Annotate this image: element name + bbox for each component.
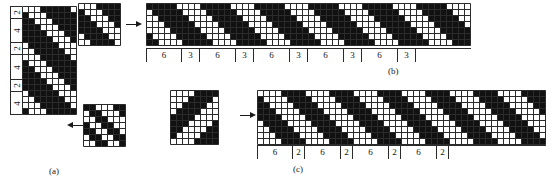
panel-c-extended bbox=[257, 90, 546, 145]
panel-c-ruler: 62626262 bbox=[257, 145, 546, 159]
panel-b-ruler: 6363636363 bbox=[146, 48, 471, 62]
panel-c-ruler-cell-4: 6 bbox=[353, 146, 389, 159]
caption-b: (b) bbox=[388, 66, 399, 76]
panel-c-ruler-cell-7: 2 bbox=[437, 146, 449, 159]
panel-b-extended-grid bbox=[146, 3, 471, 46]
panel-a-weave-grid bbox=[22, 6, 77, 115]
panel-b-extended-canvas bbox=[146, 3, 471, 46]
panel-b-ruler-cell-1: 3 bbox=[182, 49, 200, 62]
panel-c-ruler-cell-1: 2 bbox=[293, 146, 305, 159]
caption-c: (c) bbox=[293, 164, 303, 174]
panel-c-extended-canvas bbox=[257, 90, 546, 145]
panel-c-ruler-cell-5: 2 bbox=[389, 146, 401, 159]
panel-a-source bbox=[83, 104, 126, 147]
panel-a-source-canvas bbox=[83, 104, 126, 147]
panel-b-ruler-cell-0: 6 bbox=[146, 49, 182, 62]
panel-b-source-canvas bbox=[78, 3, 121, 46]
panel-c-ruler-cell-3: 2 bbox=[341, 146, 353, 159]
panel-b-ruler-cell-2: 6 bbox=[200, 49, 236, 62]
panel-b-ruler-cell-4: 6 bbox=[254, 49, 290, 62]
panel-a-label-text: 4 bbox=[13, 65, 22, 70]
panel-c-source-grid bbox=[170, 90, 219, 145]
panel-c-ruler-cell-2: 6 bbox=[305, 146, 341, 159]
panel-b-ruler-cell-3: 3 bbox=[236, 49, 254, 62]
panel-b-ruler-cell-7: 3 bbox=[344, 49, 362, 62]
panel-b-source-grid bbox=[78, 3, 121, 46]
panel-c-extended-grid bbox=[257, 90, 546, 145]
arrow-b-source-to-extended bbox=[126, 21, 142, 28]
panel-b-extended bbox=[146, 3, 471, 46]
panel-b-ruler-cell-9: 3 bbox=[398, 49, 416, 62]
panel-a-canvas bbox=[22, 6, 77, 115]
panel-a-label-text: 4 bbox=[13, 102, 22, 107]
panel-a-source-grid bbox=[83, 104, 126, 147]
panel-a-label-text: 4 bbox=[13, 28, 22, 33]
panel-a-label-text: 2 bbox=[13, 10, 22, 15]
caption-a: (a) bbox=[49, 166, 59, 176]
panel-b-ruler-cell-8: 6 bbox=[362, 49, 398, 62]
panel-b-source bbox=[78, 3, 121, 46]
panel-a-label-text: 2 bbox=[13, 47, 22, 52]
arrow-c-source-to-extended bbox=[240, 112, 256, 119]
panel-a-label-text: 2 bbox=[13, 83, 22, 88]
panel-b-ruler-cell-5: 3 bbox=[290, 49, 308, 62]
panel-c-source bbox=[170, 90, 219, 145]
arrow-a-source-to-draft bbox=[67, 122, 83, 129]
panel-c-ruler-cell-6: 6 bbox=[401, 146, 437, 159]
panel-c-source-canvas bbox=[170, 90, 219, 145]
panel-c-ruler-cell-0: 6 bbox=[257, 146, 293, 159]
panel-b-ruler-cell-6: 6 bbox=[308, 49, 344, 62]
